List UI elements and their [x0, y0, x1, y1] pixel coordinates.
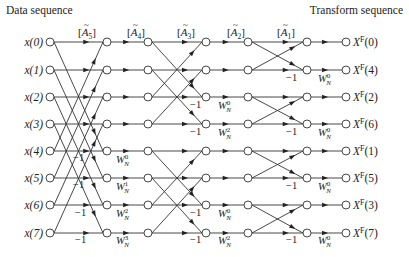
node-circle — [46, 38, 54, 46]
node-circle — [103, 229, 111, 237]
input-label: x(7) — [23, 227, 43, 240]
node-circle — [103, 66, 111, 74]
node-circle — [342, 174, 350, 182]
twiddle-factor-label: W2N — [218, 234, 231, 249]
negation-label: −1 — [286, 126, 297, 137]
labels: x(0)x(1)x(2)x(3)x(4)x(5)x(6)x(7)XF(0)XF(… — [23, 20, 378, 249]
arrow-icon — [283, 149, 289, 153]
arrow-icon — [83, 149, 89, 153]
twiddle-factor-label: W0N — [318, 126, 331, 141]
fft-butterfly-diagram: x(0)x(1)x(2)x(3)x(4)x(5)x(6)x(7)XF(0)XF(… — [0, 0, 409, 257]
node-circle — [303, 229, 311, 237]
arrow-icon — [91, 155, 95, 161]
node-circle — [244, 174, 252, 182]
tilde-mark: ~ — [283, 20, 288, 30]
arrow-icon — [223, 68, 229, 72]
node-circle — [46, 229, 54, 237]
node-circle — [303, 174, 311, 182]
arrow-icon — [91, 58, 95, 64]
node-circle — [303, 38, 311, 46]
output-label: XF(6) — [352, 117, 378, 131]
output-label: XF(1) — [352, 144, 378, 158]
negation-label: −1 — [286, 234, 297, 245]
node-circle — [244, 66, 252, 74]
node-circle — [144, 174, 152, 182]
arrow-icon — [289, 115, 295, 120]
node-circle — [244, 93, 252, 101]
twiddle-factor-label: W0N — [318, 72, 331, 87]
arrow-icon — [91, 140, 95, 146]
input-label: x(2) — [23, 91, 43, 104]
arrow-icon — [182, 203, 188, 207]
node-circle — [144, 66, 152, 74]
arrow-icon — [182, 68, 188, 72]
arrow-icon — [182, 231, 188, 235]
node-circle — [144, 38, 152, 46]
arrow-icon — [289, 61, 295, 66]
node-circle — [342, 66, 350, 74]
node-circle — [244, 120, 252, 128]
negation-label: −1 — [286, 72, 297, 83]
node-circle — [144, 201, 152, 209]
node-circle — [46, 93, 54, 101]
output-label: XF(0) — [352, 35, 378, 49]
node-circle — [303, 66, 311, 74]
output-label: XF(4) — [352, 63, 378, 77]
arrow-icon — [322, 203, 328, 207]
arrow-icon — [322, 149, 328, 153]
arrow-icon — [223, 40, 229, 44]
node-circle — [244, 229, 252, 237]
node-circle — [244, 201, 252, 209]
node-circle — [303, 147, 311, 155]
tilde-mark: ~ — [233, 20, 238, 30]
node-circle — [103, 120, 111, 128]
node-circle — [144, 147, 152, 155]
input-label: x(5) — [23, 172, 43, 185]
arrow-icon — [91, 128, 95, 134]
node-circle — [202, 147, 210, 155]
arrow-icon — [182, 149, 188, 153]
input-label: x(6) — [23, 199, 43, 212]
arrow-icon — [289, 169, 295, 174]
arrow-icon — [91, 210, 95, 216]
arrow-icon — [283, 95, 289, 99]
arrow-icon — [123, 122, 129, 126]
twiddle-factor-label: W0N — [318, 180, 331, 195]
tilde-mark: ~ — [133, 20, 138, 30]
node-circle — [46, 147, 54, 155]
output-label: XF(2) — [352, 90, 378, 104]
twiddle-factor-label: W0N — [218, 99, 231, 114]
arrow-icon — [289, 209, 295, 214]
arrow-icon — [289, 155, 295, 160]
node-circle — [342, 38, 350, 46]
node-circle — [202, 120, 210, 128]
arrow-icon — [289, 46, 295, 51]
tilde-mark: ~ — [84, 20, 89, 30]
arrow-icon — [322, 40, 328, 44]
butterfly-edges — [54, 42, 342, 233]
node-circle — [46, 66, 54, 74]
input-label: x(3) — [23, 118, 43, 131]
arrow-icon — [223, 149, 229, 153]
node-circle — [303, 120, 311, 128]
arrow-icon — [289, 101, 295, 106]
arrow-icon — [91, 113, 95, 119]
node-circle — [103, 147, 111, 155]
arrow-icon — [83, 176, 89, 180]
input-label: x(4) — [23, 145, 43, 158]
node-circle — [342, 201, 350, 209]
arrow-icon — [123, 40, 129, 44]
twiddle-factor-label: W3N — [116, 234, 129, 249]
arrow-icon — [91, 182, 95, 188]
node-circle — [342, 229, 350, 237]
arrow-icon — [322, 95, 328, 99]
negation-label: −1 — [75, 234, 86, 245]
twiddle-factor-label: W2N — [218, 126, 231, 141]
node-circle — [144, 93, 152, 101]
node-circle — [103, 201, 111, 209]
twiddle-factor-label: W2N — [116, 207, 129, 222]
twiddle-factor-label: W1N — [116, 180, 129, 195]
node-circle — [202, 38, 210, 46]
node-circle — [244, 38, 252, 46]
arrow-icon — [289, 224, 295, 229]
